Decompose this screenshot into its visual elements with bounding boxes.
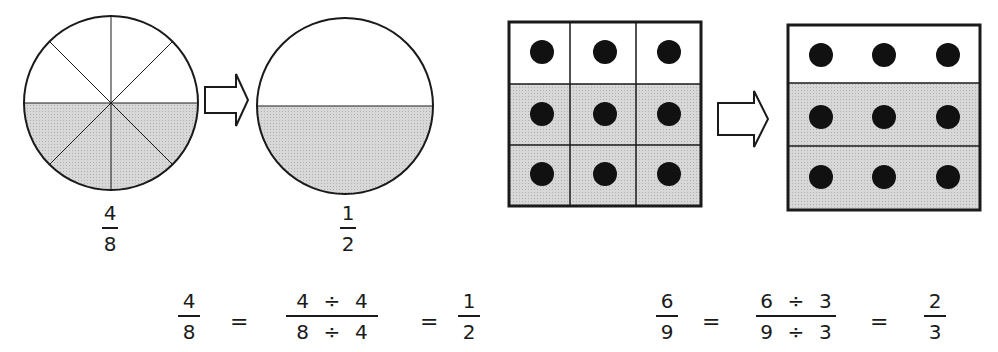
denominator-expression: 8÷4 xyxy=(296,321,367,343)
circle-eighths xyxy=(20,16,204,193)
numerator: 6 xyxy=(661,290,674,312)
denominator: 3 xyxy=(929,321,942,343)
fraction-bar xyxy=(924,315,946,317)
equation-right-middle: 6÷3 9÷3 xyxy=(756,290,836,343)
diagram-canvas xyxy=(0,0,998,352)
denominator: 2 xyxy=(463,321,476,343)
numerator-expression: 6÷3 xyxy=(760,290,831,312)
arrow-right-icon xyxy=(205,74,248,126)
fraction-bar xyxy=(340,227,356,229)
equals-sign: = xyxy=(870,309,888,334)
arrow-right-icon xyxy=(718,91,768,147)
fraction-bar xyxy=(102,227,118,229)
grid-ninths xyxy=(509,22,701,206)
denominator: 8 xyxy=(183,321,196,343)
numerator: 4 xyxy=(183,290,196,312)
numerator-expression: 4÷4 xyxy=(296,290,367,312)
equation-right-rhs: 2 3 xyxy=(924,290,946,343)
equals-sign: = xyxy=(230,309,248,334)
equals-sign: = xyxy=(702,309,720,334)
fraction-bar xyxy=(458,315,480,317)
denominator: 8 xyxy=(104,233,117,255)
equals-sign: = xyxy=(420,309,438,334)
numerator: 1 xyxy=(342,202,355,224)
denominator-expression: 9÷3 xyxy=(760,321,831,343)
equation-left-lhs: 4 8 xyxy=(178,290,200,343)
label-four-eighths: 4 8 xyxy=(102,202,118,255)
grid-thirds xyxy=(788,25,980,210)
label-one-half: 1 2 xyxy=(340,202,356,255)
fraction-bar xyxy=(656,315,678,317)
circle-halves xyxy=(255,18,435,198)
numerator: 1 xyxy=(463,290,476,312)
equation-left-middle: 4÷4 8÷4 xyxy=(286,290,378,343)
fraction-bar xyxy=(756,315,836,317)
denominator: 2 xyxy=(342,233,355,255)
equation-left-rhs: 1 2 xyxy=(458,290,480,343)
numerator: 2 xyxy=(929,290,942,312)
numerator: 4 xyxy=(104,202,117,224)
equation-right-lhs: 6 9 xyxy=(656,290,678,343)
denominator: 9 xyxy=(661,321,674,343)
fraction-bar xyxy=(286,315,378,317)
fraction-bar xyxy=(178,315,200,317)
